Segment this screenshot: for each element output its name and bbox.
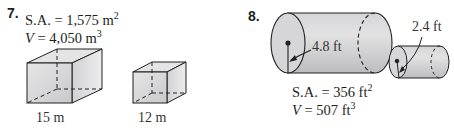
large-cube-label: 15 m — [36, 110, 64, 126]
large-cube-figure — [27, 49, 102, 103]
volume-7: V = 4,050 m3 — [25, 30, 102, 46]
surface-area-7: S.A. = 1,575 m2 — [25, 12, 119, 28]
problem-number-8: 8. — [248, 8, 260, 24]
surface-area-8: S.A. = 356 ft2 — [292, 84, 372, 100]
small-cube-label: 12 m — [138, 110, 166, 126]
small-cylinder-figure — [389, 37, 449, 78]
small-cube-figure — [133, 62, 186, 103]
large-cylinder-radius-label: 4.8 ft — [312, 39, 342, 55]
small-cylinder-radius-label: 2.4 ft — [412, 19, 442, 35]
problem-number-7: 7. — [7, 5, 19, 21]
volume-8: V = 507 ft3 — [292, 102, 356, 118]
